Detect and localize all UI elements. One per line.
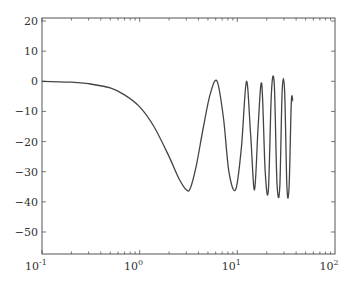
plot-area [42, 18, 335, 254]
x-tick-label: 10-1 [25, 258, 47, 273]
y-tick-label: −30 [15, 166, 38, 179]
y-tick-label: −40 [15, 196, 38, 209]
x-axis-labels: 10-1100101102 [25, 258, 338, 273]
x-tick-label: 100 [124, 258, 143, 273]
y-axis-labels: 20100−10−20−30−40−50 [15, 15, 38, 239]
y-tick-label: 20 [24, 15, 38, 28]
y-tick-label: 0 [31, 75, 38, 88]
y-tick-label: −50 [15, 226, 38, 239]
y-tick-label: −10 [15, 105, 38, 118]
x-axis-ticks [42, 18, 331, 254]
line-chart: 10-1100101102 20100−10−20−30−40−50 [0, 0, 363, 289]
x-tick-label: 102 [319, 258, 338, 273]
x-tick-label: 101 [222, 258, 241, 273]
y-tick-label: −20 [15, 136, 38, 149]
y-tick-label: 10 [24, 45, 38, 58]
data-line [42, 76, 293, 198]
